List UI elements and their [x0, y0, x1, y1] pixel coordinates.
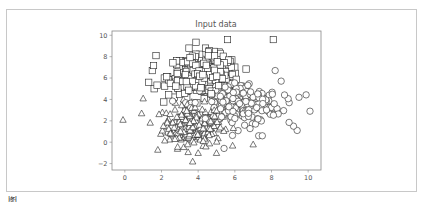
- square-marker: [161, 99, 167, 105]
- circle-marker: [278, 78, 284, 84]
- data-points: [120, 36, 313, 164]
- triangle-marker: [229, 142, 235, 148]
- triangle-marker: [199, 106, 205, 112]
- circle-marker: [217, 93, 223, 99]
- circle-marker: [260, 100, 266, 106]
- triangle-marker: [138, 110, 144, 116]
- square-marker: [211, 67, 217, 73]
- square-marker: [224, 36, 230, 42]
- caption-text: 图1.1: [8, 196, 28, 202]
- circle-marker: [269, 91, 275, 97]
- square-marker: [219, 76, 225, 82]
- circle-marker: [255, 116, 261, 122]
- square-marker: [165, 92, 171, 98]
- square-marker: [243, 66, 249, 72]
- square-marker: [187, 54, 193, 60]
- y-tick-label: −2: [98, 160, 108, 168]
- x-axis: 0246810: [123, 170, 313, 182]
- circle-marker: [245, 82, 251, 88]
- circle-marker: [230, 89, 236, 95]
- square-marker: [270, 36, 276, 42]
- figure-caption: 图1.1: [8, 196, 28, 202]
- x-tick-label: 6: [233, 174, 237, 182]
- triangle-marker: [155, 146, 161, 152]
- square-marker: [170, 60, 176, 66]
- square-marker: [213, 73, 219, 79]
- circle-marker: [286, 119, 292, 125]
- circle-marker: [236, 100, 242, 106]
- circle-marker: [229, 132, 235, 138]
- square-marker: [205, 53, 211, 59]
- square-marker: [145, 79, 151, 85]
- y-tick-label: 2: [103, 117, 107, 125]
- circle-marker: [220, 99, 226, 105]
- x-tick-label: 8: [269, 174, 273, 182]
- circle-marker: [240, 90, 246, 96]
- triangle-marker: [162, 137, 168, 143]
- triangle-marker: [250, 141, 256, 147]
- circle-marker: [253, 104, 259, 110]
- circle-marker: [245, 110, 251, 116]
- x-tick-label: 0: [123, 174, 127, 182]
- circle-marker: [263, 107, 269, 113]
- square-marker: [214, 59, 220, 65]
- circle-marker: [169, 98, 175, 104]
- square-marker: [161, 83, 167, 89]
- circle-marker: [281, 92, 287, 98]
- triangle-marker: [213, 150, 219, 156]
- scatter-chart: Input data 0246810 −20246810: [0, 0, 426, 202]
- x-tick-label: 10: [304, 174, 312, 182]
- circle-marker: [221, 145, 227, 151]
- circle-marker: [230, 108, 236, 114]
- square-marker: [154, 82, 160, 88]
- circle-marker: [303, 92, 309, 98]
- square-marker: [193, 39, 199, 45]
- triangle-marker: [195, 150, 201, 156]
- circle-marker: [232, 115, 238, 121]
- y-tick-label: 8: [103, 53, 107, 61]
- square-marker: [198, 85, 204, 91]
- circle-marker: [218, 114, 224, 120]
- square-marker: [208, 91, 214, 97]
- square-marker: [186, 45, 192, 51]
- triangle-marker: [172, 106, 178, 112]
- triangle-marker: [140, 95, 146, 101]
- circle-marker: [259, 133, 265, 139]
- square-marker: [211, 53, 217, 59]
- y-tick-label: 4: [103, 96, 107, 104]
- circle-marker: [247, 125, 253, 131]
- triangle-marker: [120, 117, 126, 123]
- circle-marker: [202, 115, 208, 121]
- square-marker: [163, 74, 169, 80]
- circle-marker: [272, 67, 278, 73]
- circle-marker: [217, 106, 223, 112]
- circle-marker: [296, 94, 302, 100]
- circle-marker: [243, 98, 249, 104]
- circle-marker: [230, 95, 236, 101]
- circle-marker: [247, 89, 253, 95]
- chart-title: Input data: [195, 20, 236, 29]
- y-tick-label: 6: [103, 74, 107, 82]
- square-marker: [182, 71, 188, 77]
- y-tick-label: 0: [103, 139, 107, 147]
- square-marker: [174, 70, 180, 76]
- x-tick-label: 2: [159, 174, 163, 182]
- y-axis: −20246810: [98, 32, 112, 168]
- square-marker: [200, 72, 206, 78]
- circle-marker: [307, 108, 313, 114]
- circle-marker: [271, 101, 277, 107]
- x-tick-label: 4: [196, 174, 200, 182]
- square-marker: [173, 83, 179, 89]
- square-marker: [153, 52, 159, 58]
- square-marker: [183, 78, 189, 84]
- square-marker: [203, 62, 209, 68]
- circle-marker: [231, 80, 237, 86]
- triangle-marker: [189, 158, 195, 164]
- circle-marker: [255, 91, 261, 97]
- circle-marker: [270, 112, 276, 118]
- circle-marker: [192, 99, 198, 105]
- triangle-marker: [147, 119, 153, 125]
- circle-marker: [222, 84, 228, 90]
- y-tick-label: 10: [99, 32, 107, 40]
- square-marker: [150, 62, 156, 68]
